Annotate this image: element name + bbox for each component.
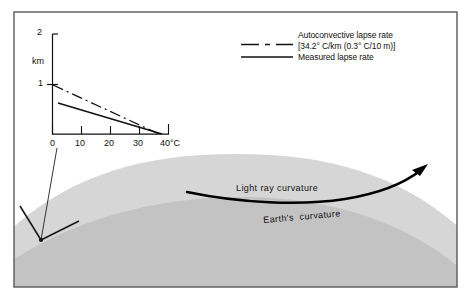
inset-xlabel-30: 30: [133, 139, 143, 148]
inset-xlabel-40-celsius: 40°C: [160, 139, 180, 148]
legend-item-autoconvective-line2: [34.2° C/km (0.3° C/10 m)]: [298, 42, 395, 51]
inset-xlabel-20: 20: [104, 139, 114, 148]
figure-frame: [14, 12, 457, 287]
pointer-wedge-left: [20, 206, 41, 240]
inset-xlabel-0: 0: [50, 139, 55, 148]
figure-container: 2 km 1 0 10 20 30 40°C Autoconvective la…: [0, 0, 471, 301]
legend-item-measured-lapse-rate: Measured lapse rate: [298, 53, 374, 62]
pointer-vertex-dot: [39, 238, 43, 242]
pointer-wedge-right: [41, 221, 79, 240]
series-autoconvective-lapse-rate: [53, 85, 159, 134]
inset-xlabel-10: 10: [75, 139, 85, 148]
vector-overlay-layer: [0, 0, 471, 301]
light-ray-curvature-label: Light ray curvature: [236, 184, 318, 193]
inset-ylabel-1: 1: [38, 79, 43, 88]
inset-ylabel-2: 2: [37, 28, 42, 37]
inset-yaxis-unit: km: [32, 57, 44, 66]
legend-item-autoconvective-line1: Autoconvective lapse rate: [298, 31, 393, 40]
inset-pointer-line: [41, 148, 57, 240]
